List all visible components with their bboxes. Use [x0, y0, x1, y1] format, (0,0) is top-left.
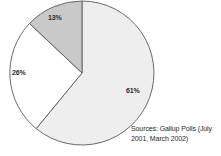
pie-chart-figure: 61% 26% 13% Sources: Gallup Polls (July …: [0, 0, 221, 156]
pie-label-26: 26%: [12, 69, 26, 76]
pie-label-13: 13%: [48, 14, 62, 21]
pie-label-61: 61%: [126, 87, 140, 94]
source-note: Sources: Gallup Polls (July 2001, March …: [131, 124, 219, 144]
